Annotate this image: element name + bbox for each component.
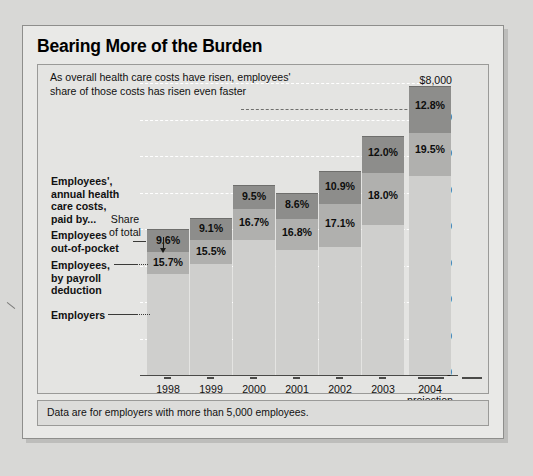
- xtick-2002: [336, 377, 343, 379]
- ytick-label-8000: $8,000: [398, 74, 452, 86]
- label-payroll-2004: 19.5%: [409, 143, 451, 155]
- label-payroll-1998: 15.7%: [147, 256, 189, 268]
- xtick-1998: [164, 377, 171, 379]
- xtick-2001: [293, 377, 300, 379]
- footer-text: Data are for employers with more than 5,…: [47, 407, 309, 418]
- bar-1999[interactable]: 9.1% 15.5%: [190, 218, 232, 375]
- bar-2003[interactable]: 12.0% 18.0%: [362, 136, 404, 375]
- label-payroll-2001: 16.8%: [276, 226, 318, 238]
- xtick-1999: [207, 377, 214, 379]
- bar-1998[interactable]: 9.6% 15.7%: [147, 229, 189, 375]
- infographic-card: Bearing More of the Burden As overall he…: [22, 25, 504, 439]
- bar-2004[interactable]: 12.8% 19.5%: [409, 86, 451, 375]
- bar-2000[interactable]: 9.5% 16.7%: [233, 185, 275, 375]
- segment-employers-2003: [362, 225, 404, 375]
- segment-employers-2001: [276, 250, 318, 375]
- xtick-2000: [250, 377, 257, 379]
- label-payroll-2002: 17.1%: [319, 217, 361, 229]
- label-payroll-2000: 16.7%: [233, 216, 275, 228]
- chart-panel: As overall health care costs have risen,…: [37, 64, 489, 394]
- label-out-of-pocket-2004: 12.8%: [409, 99, 451, 111]
- leader-payroll: [114, 264, 136, 265]
- plot-area: $8,000 7,000 6,000 5,000 4,000 3,000 2,0…: [38, 65, 490, 395]
- page-stray-mark: [7, 302, 15, 309]
- label-payroll-2003: 18.0%: [362, 189, 404, 201]
- label-payroll-1999: 15.5%: [190, 245, 232, 257]
- label-out-of-pocket-2002: 10.9%: [319, 180, 361, 192]
- bar-2001[interactable]: 8.6% 16.8%: [276, 193, 318, 375]
- label-out-of-pocket-1999: 9.1%: [190, 222, 232, 234]
- segment-employers-2002: [319, 247, 361, 375]
- page-title: Bearing More of the Burden: [37, 36, 262, 57]
- screenshot-root: Bearing More of the Burden As overall he…: [0, 0, 533, 476]
- legend-employers: Employers: [51, 309, 141, 322]
- label-out-of-pocket-2003: 12.0%: [362, 146, 404, 158]
- xtick-2003: [379, 377, 386, 379]
- label-out-of-pocket-2001: 8.6%: [276, 198, 318, 210]
- segment-employers-1998: [147, 274, 189, 375]
- label-out-of-pocket-2000: 9.5%: [233, 190, 275, 202]
- segment-employers-2000: [233, 240, 275, 375]
- xtick-end: [462, 377, 482, 379]
- xtick-2004: [418, 377, 444, 379]
- legend-out-of-pocket: Employees out-of-pocket: [51, 229, 141, 254]
- label-out-of-pocket-1998: 9.6%: [147, 234, 189, 246]
- footer-note: Data are for employers with more than 5,…: [37, 400, 489, 426]
- segment-employers-1999: [190, 264, 232, 375]
- bar-2002[interactable]: 10.9% 17.1%: [319, 171, 361, 375]
- leader-employers-dotted: [136, 314, 150, 315]
- leader-payroll-dotted: [136, 264, 148, 265]
- segment-employers-2004: [409, 176, 451, 375]
- leader-employers: [108, 314, 136, 315]
- share-arrow-head: [160, 248, 166, 253]
- leader-out-of-pocket: [133, 241, 146, 242]
